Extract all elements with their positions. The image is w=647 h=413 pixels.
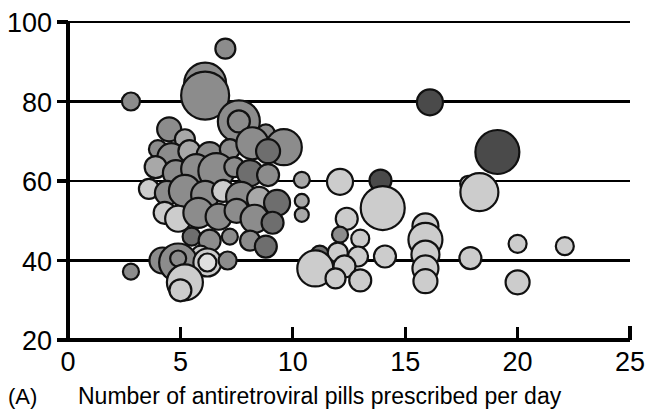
bubble-point xyxy=(257,164,279,186)
bubble-point xyxy=(123,264,139,280)
y-tick-label: 20 xyxy=(22,326,52,356)
bubble-point xyxy=(509,235,527,253)
y-tick-label: 40 xyxy=(22,247,52,277)
bubble-point xyxy=(460,173,498,211)
bubble-point xyxy=(413,269,437,293)
y-tick-label: 60 xyxy=(22,167,52,197)
bubble-point xyxy=(295,208,309,222)
bubble-chart-svg: 204060801000510152025 (A) Number of anti… xyxy=(0,0,647,413)
y-tick-label: 100 xyxy=(7,8,52,38)
bubble-point xyxy=(295,194,309,208)
bubble-point xyxy=(332,227,348,243)
bubble-point xyxy=(294,172,310,188)
bubble-point xyxy=(122,93,140,111)
bubble-point xyxy=(361,186,405,230)
bubble-point xyxy=(556,237,574,255)
bubble-point xyxy=(475,130,519,174)
x-tick-label: 5 xyxy=(173,347,188,377)
bubble-point xyxy=(459,247,481,269)
bubble-point xyxy=(349,269,371,291)
x-tick-label: 20 xyxy=(503,347,533,377)
bubble-point xyxy=(351,230,369,248)
bubble-point xyxy=(506,270,530,294)
bubble-point xyxy=(327,169,353,195)
bubble-chart-figure: 204060801000510152025 (A) Number of anti… xyxy=(0,0,647,413)
x-tick-label: 10 xyxy=(278,347,308,377)
axis-labels-group: 204060801000510152025 xyxy=(7,8,645,377)
bubble-point xyxy=(222,229,238,245)
bubble-point xyxy=(255,236,277,258)
bubble-point xyxy=(219,252,237,270)
bubble-point xyxy=(326,268,346,288)
bubble-point xyxy=(374,246,396,268)
bubble-point xyxy=(262,212,284,234)
x-tick-label: 15 xyxy=(390,347,420,377)
panel-label: (A) xyxy=(8,384,37,409)
bubble-point xyxy=(198,253,216,271)
bubble-point xyxy=(215,39,235,59)
bubble-point xyxy=(417,89,443,115)
bubble-point xyxy=(256,139,280,163)
bubble-point xyxy=(169,279,191,301)
y-tick-label: 80 xyxy=(22,88,52,118)
x-axis-title: Number of antiretroviral pills prescribe… xyxy=(78,383,562,409)
x-tick-label: 0 xyxy=(60,347,75,377)
x-tick-label: 25 xyxy=(615,347,645,377)
bubbles-group xyxy=(122,39,574,302)
